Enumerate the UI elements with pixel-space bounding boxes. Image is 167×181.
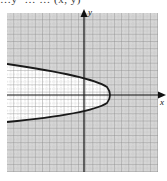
- grid: [7, 13, 158, 172]
- graph: y x: [0, 0, 167, 181]
- x-axis-label: x: [159, 97, 164, 107]
- y-axis-label: y: [87, 7, 92, 17]
